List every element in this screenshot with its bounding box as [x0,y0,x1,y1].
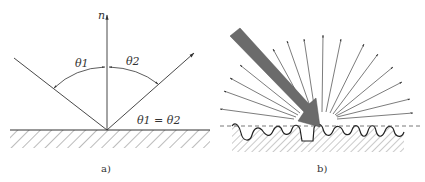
surface-hatch [10,130,210,148]
equation-label: θ1 = θ2 [137,114,180,127]
caption-a: a) [101,163,111,174]
theta1-label: θ1 [75,57,89,70]
caption-b: b) [317,163,327,174]
theta2-label: θ2 [126,55,140,68]
normal-label: n [98,9,105,22]
incident-ray [14,58,107,130]
angle-arc-theta2 [109,67,158,84]
panel-a-specular-reflection: n θ1 θ2 θ1 = θ2 a) [10,9,210,174]
panel-b-diffuse-reflection: b) [220,28,420,174]
angle-arc-theta1 [54,67,105,88]
reflection-diagram: n θ1 θ2 θ1 = θ2 a) [0,0,425,182]
